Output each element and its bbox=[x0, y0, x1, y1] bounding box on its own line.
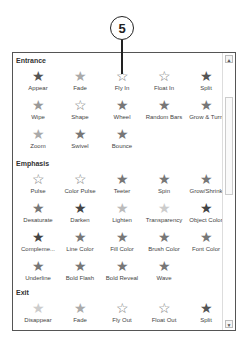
star-icon: ☆ bbox=[157, 301, 171, 315]
effect-desaturate[interactable]: ★Desaturate bbox=[17, 201, 59, 229]
section-header-exit: Exit bbox=[16, 289, 29, 296]
scroll-down-button[interactable]: ▼ bbox=[225, 320, 233, 328]
star-icon: ★ bbox=[31, 98, 45, 112]
star-icon: ★ bbox=[115, 98, 129, 112]
effect-label: Wipe bbox=[17, 114, 59, 120]
effect-fill-color[interactable]: ★Fill Color bbox=[101, 230, 143, 258]
effect-label: Wheel bbox=[101, 114, 143, 120]
effect-bold-flash[interactable]: ★Bold Flash bbox=[59, 259, 101, 287]
effect-label: Split bbox=[185, 317, 227, 323]
effect-label: Spin bbox=[143, 188, 185, 194]
effect-label: Appear bbox=[17, 85, 59, 91]
star-icon: ★ bbox=[157, 201, 171, 215]
effect-brush-color[interactable]: ★Brush Color bbox=[143, 230, 185, 258]
star-icon: ☆ bbox=[115, 301, 129, 315]
star-icon: ★ bbox=[115, 230, 129, 244]
effect-split[interactable]: ★Split bbox=[185, 69, 227, 97]
effect-object-color[interactable]: ★Object Color bbox=[185, 201, 227, 229]
effect-float-in[interactable]: ☆Float In bbox=[143, 69, 185, 97]
effect-underline[interactable]: ★Underline bbox=[17, 259, 59, 287]
effect-label: Pulse bbox=[17, 188, 59, 194]
step-callout: 5 bbox=[110, 16, 134, 40]
section-header-emphasis: Emphasis bbox=[16, 160, 49, 167]
effect-label: Brush Color bbox=[143, 246, 185, 252]
effect-random-bars[interactable]: ★Random Bars bbox=[143, 98, 185, 126]
arrow-down-icon: ▼ bbox=[227, 322, 232, 328]
star-icon: ★ bbox=[31, 230, 45, 244]
star-icon: ★ bbox=[73, 127, 87, 141]
effect-label: Line Color bbox=[59, 246, 101, 252]
effect-grow-turn[interactable]: ★Grow & Turn bbox=[185, 98, 227, 126]
star-icon: ★ bbox=[115, 201, 129, 215]
effect-wipe[interactable]: ★Wipe bbox=[17, 98, 59, 126]
star-icon: ★ bbox=[31, 301, 45, 315]
effect-label: Zoom bbox=[17, 143, 59, 149]
effect-label: Float Out bbox=[143, 317, 185, 323]
effect-label: Fade bbox=[59, 317, 101, 323]
effect-label: Darken bbox=[59, 217, 101, 223]
effect-disappear[interactable]: ★Disappear bbox=[17, 301, 59, 329]
effect-split[interactable]: ★Split bbox=[185, 301, 227, 329]
effect-zoom[interactable]: ★Zoom bbox=[17, 127, 59, 155]
effect-label: Bold Flash bbox=[59, 275, 101, 281]
effect-label: Fly In bbox=[101, 85, 143, 91]
effect-wave[interactable]: ★Wave bbox=[143, 259, 185, 287]
animation-gallery: Entrance★Appear★Fade☆Fly In☆Float In★Spl… bbox=[12, 52, 236, 331]
effect-label: Wave bbox=[143, 275, 185, 281]
effect-label: Swivel bbox=[59, 143, 101, 149]
effect-bounce[interactable]: ★Bounce bbox=[101, 127, 143, 155]
effect-swivel[interactable]: ★Swivel bbox=[59, 127, 101, 155]
star-icon: ★ bbox=[115, 127, 129, 141]
star-icon: ★ bbox=[31, 201, 45, 215]
vertical-scrollbar[interactable]: ▲ ▼ bbox=[222, 53, 235, 330]
effect-shape[interactable]: ☆Shape bbox=[59, 98, 101, 126]
effect-label: Transparency bbox=[143, 217, 185, 223]
star-icon: ★ bbox=[115, 259, 129, 273]
star-icon: ★ bbox=[73, 259, 87, 273]
star-icon: ☆ bbox=[31, 172, 45, 186]
effect-label: Fly Out bbox=[101, 317, 143, 323]
effect-label: Fade bbox=[59, 85, 101, 91]
effect-wheel[interactable]: ★Wheel bbox=[101, 98, 143, 126]
effect-compleme[interactable]: ★Compleme... bbox=[17, 230, 59, 258]
star-icon: ★ bbox=[199, 230, 213, 244]
effect-float-out[interactable]: ☆Float Out bbox=[143, 301, 185, 329]
effect-fly-out[interactable]: ☆Fly Out bbox=[101, 301, 143, 329]
effect-spin[interactable]: ★Spin bbox=[143, 172, 185, 200]
effect-label: Object Color bbox=[185, 217, 227, 223]
effect-font-color[interactable]: ★Font Color bbox=[185, 230, 227, 258]
arrow-up-icon: ▲ bbox=[227, 57, 232, 63]
effect-label: Fill Color bbox=[101, 246, 143, 252]
star-icon: ★ bbox=[31, 127, 45, 141]
star-icon: ★ bbox=[115, 172, 129, 186]
star-icon: ★ bbox=[157, 98, 171, 112]
effect-label: Lighten bbox=[101, 217, 143, 223]
effect-line-color[interactable]: ★Line Color bbox=[59, 230, 101, 258]
effect-transparency[interactable]: ★Transparency bbox=[143, 201, 185, 229]
effect-color-pulse[interactable]: ☆Color Pulse bbox=[59, 172, 101, 200]
effect-label: Color Pulse bbox=[59, 188, 101, 194]
scroll-thumb[interactable] bbox=[225, 97, 233, 195]
star-icon: ★ bbox=[157, 172, 171, 186]
star-icon: ★ bbox=[199, 301, 213, 315]
star-icon: ★ bbox=[73, 230, 87, 244]
section-header-entrance: Entrance bbox=[16, 57, 46, 64]
effect-label: Disappear bbox=[17, 317, 59, 323]
star-icon: ★ bbox=[199, 201, 213, 215]
callout-number: 5 bbox=[118, 21, 125, 36]
effect-fade[interactable]: ★Fade bbox=[59, 301, 101, 329]
star-icon: ★ bbox=[199, 172, 213, 186]
effect-label: Compleme... bbox=[17, 246, 59, 252]
effect-teeter[interactable]: ★Teeter bbox=[101, 172, 143, 200]
effect-bold-reveal[interactable]: ★Bold Reveal bbox=[101, 259, 143, 287]
star-icon: ☆ bbox=[73, 98, 87, 112]
effect-label: Grow/Shrink bbox=[185, 188, 227, 194]
scroll-up-button[interactable]: ▲ bbox=[225, 55, 233, 63]
effect-pulse[interactable]: ☆Pulse bbox=[17, 172, 59, 200]
effect-lighten[interactable]: ★Lighten bbox=[101, 201, 143, 229]
effect-fade[interactable]: ★Fade bbox=[59, 69, 101, 97]
effect-grow-shrink[interactable]: ★Grow/Shrink bbox=[185, 172, 227, 200]
effect-appear[interactable]: ★Appear bbox=[17, 69, 59, 97]
star-icon: ★ bbox=[31, 259, 45, 273]
effect-darken[interactable]: ★Darken bbox=[59, 201, 101, 229]
